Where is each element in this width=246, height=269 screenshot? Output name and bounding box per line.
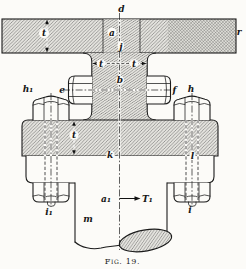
label-i: i — [188, 205, 192, 215]
label-a: a — [109, 28, 115, 38]
label-T1: T₁ — [142, 194, 153, 204]
label-k: k — [107, 150, 113, 160]
figure-page: d r t a j t t b e f h₁ h t k l i₁ i a₁ T… — [0, 0, 246, 269]
label-b: b — [117, 75, 123, 85]
label-r: r — [237, 27, 243, 37]
label-e: e — [59, 85, 65, 95]
label-h1: h₁ — [23, 84, 34, 94]
figure-caption: Fig. 19. — [105, 257, 140, 266]
label-d: d — [118, 4, 125, 14]
label-h: h — [188, 84, 195, 94]
label-l: l — [191, 151, 195, 161]
engineering-drawing: d r t a j t t b e f h₁ h t k l i₁ i a₁ T… — [0, 0, 246, 269]
label-a1: a₁ — [101, 194, 111, 204]
label-f: f — [172, 85, 179, 95]
label-i1: i₁ — [45, 207, 52, 217]
label-m: m — [83, 214, 93, 224]
